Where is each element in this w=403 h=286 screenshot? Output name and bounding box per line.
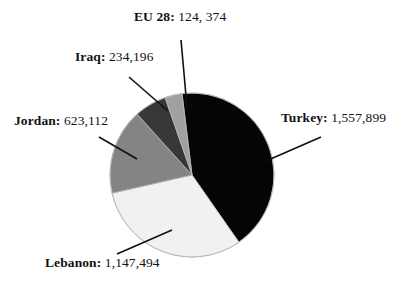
leader-line-turkey: [266, 137, 321, 161]
slice-label-turkey: Turkey: 1,557,899: [281, 111, 386, 125]
pie-chart-figure: EU 28: 124, 374 Iraq: 234,196 Jordan: 62…: [0, 0, 403, 286]
slice-label-lebanon: Lebanon: 1,147,494: [45, 256, 160, 270]
slice-label-jordan-name: Jordan:: [14, 113, 60, 128]
pie-slices-group: [110, 93, 274, 257]
slice-label-jordan-value: 623,112: [60, 113, 108, 128]
slice-label-eu28-name: EU 28:: [134, 9, 175, 24]
slice-label-iraq: Iraq: 234,196: [75, 50, 154, 64]
pie-chart-svg: [0, 0, 403, 286]
slice-label-turkey-name: Turkey:: [281, 110, 328, 125]
slice-label-eu28: EU 28: 124, 374: [134, 10, 226, 24]
slice-label-turkey-value: 1,557,899: [328, 110, 386, 125]
slice-label-lebanon-value: 1,147,494: [101, 255, 159, 270]
slice-label-iraq-value: 234,196: [106, 49, 154, 64]
slice-label-lebanon-name: Lebanon:: [45, 255, 101, 270]
slice-label-iraq-name: Iraq:: [75, 49, 106, 64]
slice-label-jordan: Jordan: 623,112: [14, 114, 108, 128]
slice-label-eu28-value: 124, 374: [175, 9, 227, 24]
